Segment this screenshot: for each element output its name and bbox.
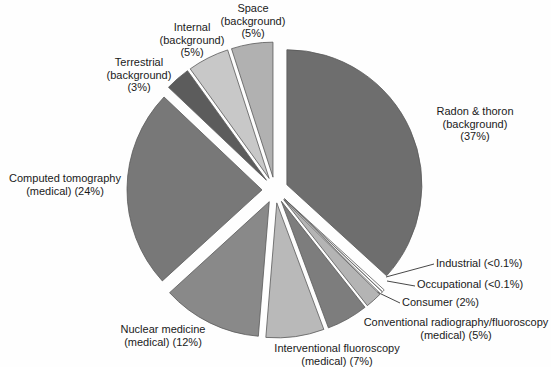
label-line: (medical) (5%) — [364, 329, 549, 342]
label-space: Space (background) (5%) — [221, 2, 286, 40]
label-line: Industrial (<0.1%) — [436, 257, 523, 270]
label-interventional-fluoroscopy: Interventional fluoroscopy (medical) (7%… — [274, 342, 399, 367]
label-line: (medical) (24%) — [9, 185, 121, 198]
label-consumer: Consumer (2%) — [402, 296, 479, 309]
label-line: Internal — [160, 21, 225, 34]
label-computed-tomography: Computed tomography (medical) (24%) — [9, 172, 121, 197]
label-line: (5%) — [221, 27, 286, 40]
label-line: Conventional radiography/fluoroscopy — [364, 316, 549, 329]
label-line: Radon & thoron — [436, 105, 513, 118]
label-industrial: Industrial (<0.1%) — [436, 257, 523, 270]
label-line: Occupational (<0.1%) — [417, 278, 523, 291]
label-terrestrial: Terrestrial (background) (3%) — [107, 56, 172, 94]
label-line: Interventional fluoroscopy — [274, 342, 399, 355]
label-line: (medical) (7%) — [274, 355, 399, 367]
label-radon-thoron: Radon & thoron (background) (37%) — [436, 105, 513, 143]
label-line: (background) — [221, 15, 286, 28]
label-line: (37%) — [436, 130, 513, 143]
leader-line-occupational — [387, 281, 415, 286]
label-line: (5%) — [160, 46, 225, 59]
label-line: (background) — [107, 69, 172, 82]
label-line: (3%) — [107, 81, 172, 94]
label-internal: Internal (background) (5%) — [160, 21, 225, 59]
label-line: (background) — [436, 118, 513, 131]
label-line: (background) — [160, 34, 225, 47]
label-line: Computed tomography — [9, 172, 121, 185]
label-line: Nuclear medicine — [121, 323, 206, 336]
label-line: (medical) (12%) — [121, 336, 206, 349]
label-nuclear-medicine: Nuclear medicine (medical) (12%) — [121, 323, 206, 348]
label-conventional-radiography: Conventional radiography/fluoroscopy (me… — [364, 316, 549, 341]
label-occupational: Occupational (<0.1%) — [417, 278, 523, 291]
label-line: Consumer (2%) — [402, 296, 479, 309]
radiation-exposure-pie-figure: Radon & thoron (background) (37%) Indust… — [0, 0, 551, 367]
label-line: Space — [221, 2, 286, 15]
